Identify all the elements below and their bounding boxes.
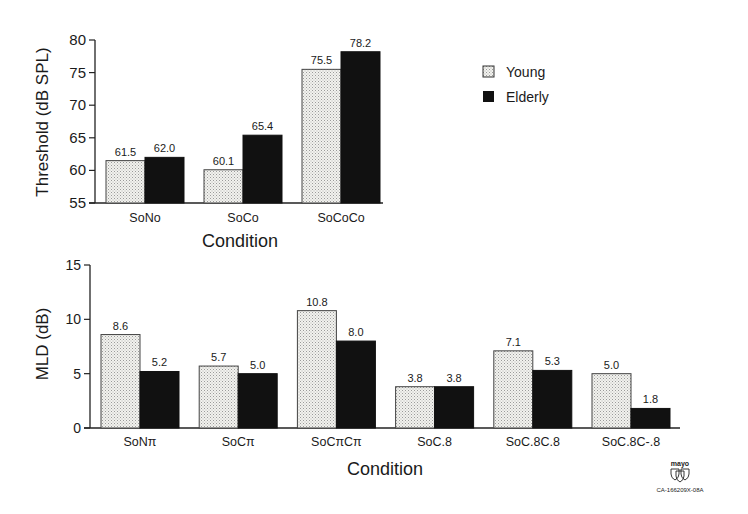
- mld-labels: 8.65.2SoNπ5.75.0SoCπ10.88.0SoCπCπ3.83.8S…: [113, 296, 660, 449]
- threshold-x-tick-label: SoCo: [227, 211, 258, 225]
- bar-young-soc-8c-8: [592, 374, 631, 428]
- data-label-elderly-socpi: 5.0: [250, 359, 265, 371]
- bar-elderly-socpicpi: [336, 341, 375, 428]
- data-label-elderly-sono: 62.0: [154, 142, 175, 154]
- bar-young-socpi: [199, 366, 238, 428]
- data-label-young-socpicpi: 10.8: [306, 296, 327, 308]
- legend-swatch-elderly: [483, 91, 494, 102]
- mld-x-tick-label: SoCπCπ: [311, 435, 362, 449]
- figure: 556065707580 61.562.0SoNo60.165.4SoCo75.…: [0, 0, 748, 514]
- threshold-x-axis-label: Condition: [202, 231, 278, 251]
- data-label-young-socpi: 5.7: [211, 351, 226, 363]
- bar-elderly-soco: [243, 135, 282, 203]
- data-label-elderly-soco: 65.4: [252, 120, 273, 132]
- bar-elderly-soc-8c-8: [631, 408, 670, 428]
- data-label-elderly-soc-8c-8: 1.8: [643, 393, 658, 405]
- bar-young-soc-8c-8: [494, 351, 533, 428]
- bar-young-soc-8: [396, 387, 435, 428]
- data-label-young-soco: 60.1: [213, 155, 234, 167]
- data-label-young-soc-8c-8: 5.0: [604, 359, 619, 371]
- bar-elderly-socpi: [238, 374, 277, 428]
- data-label-elderly-soc-8: 3.8: [446, 372, 461, 384]
- threshold-y-tick-label: 75: [69, 64, 86, 81]
- bar-elderly-sococo: [341, 52, 380, 203]
- threshold-y-tick-label: 60: [69, 161, 86, 178]
- bar-young-sonpi: [101, 335, 140, 428]
- legend-item-elderly: Elderly: [483, 89, 549, 105]
- data-label-young-sono: 61.5: [115, 146, 136, 158]
- threshold-y-tick-label: 65: [69, 129, 86, 146]
- bar-elderly-sonpi: [140, 371, 179, 428]
- mld-x-tick-label: SoC.8: [417, 435, 452, 449]
- data-label-young-soc-8c-8: 7.1: [506, 336, 521, 348]
- legend-label-elderly: Elderly: [506, 89, 549, 105]
- mld-bars: [101, 311, 670, 428]
- mld-x-tick-label: SoCπ: [222, 435, 255, 449]
- mld-x-tick-label: SoC.8C-.8: [602, 435, 660, 449]
- bar-young-sono: [106, 161, 145, 203]
- bar-young-soco: [204, 170, 243, 203]
- mld-y-axis-label: MLD (dB): [33, 308, 52, 381]
- logo-text: mayo: [671, 460, 689, 468]
- data-label-young-sonpi: 8.6: [113, 320, 128, 332]
- mld-chart: 051015 8.65.2SoNπ5.75.0SoCπ10.88.0SoCπCπ…: [33, 257, 680, 479]
- data-label-young-soc-8: 3.8: [407, 372, 422, 384]
- threshold-y-tick-label: 80: [69, 31, 86, 48]
- threshold-y-axis-label: Threshold (dB SPL): [33, 47, 52, 196]
- mld-y-tick-label: 0: [73, 420, 81, 436]
- mld-y-tick-label: 10: [65, 311, 81, 327]
- data-label-elderly-socpicpi: 8.0: [348, 326, 363, 338]
- legend-label-young: Young: [506, 64, 545, 80]
- legend-item-young: Young: [483, 64, 545, 80]
- data-label-elderly-sonpi: 5.2: [152, 356, 167, 368]
- legend-swatch-young: [483, 66, 494, 77]
- threshold-x-tick-label: SoCoCo: [317, 211, 364, 225]
- bar-elderly-soc-8: [435, 387, 474, 428]
- bar-young-socpicpi: [297, 311, 336, 428]
- data-label-elderly-soc-8c-8: 5.3: [545, 355, 560, 367]
- mld-x-tick-label: SoC.8C.8: [506, 435, 560, 449]
- mayo-logo: mayo CA-166209X-08A: [656, 460, 703, 493]
- bar-elderly-sono: [145, 157, 184, 203]
- bar-elderly-soc-8c-8: [533, 370, 572, 428]
- legend: Young Elderly: [483, 64, 549, 105]
- mld-y-tick-label: 15: [65, 257, 81, 273]
- bar-young-sococo: [302, 69, 341, 203]
- threshold-bars: [106, 52, 380, 203]
- threshold-y-tick-label: 55: [69, 194, 86, 211]
- shield-icon: [671, 469, 689, 482]
- data-label-young-sococo: 75.5: [311, 54, 332, 66]
- threshold-chart: 556065707580 61.562.0SoNo60.165.4SoCo75.…: [33, 31, 383, 251]
- threshold-y-tick-label: 70: [69, 96, 86, 113]
- mld-y-tick-label: 5: [73, 366, 81, 382]
- threshold-x-tick-label: SoNo: [129, 211, 160, 225]
- mld-x-tick-label: SoNπ: [124, 435, 157, 449]
- figure-code: CA-166209X-08A: [656, 487, 703, 493]
- data-label-elderly-sococo: 78.2: [350, 37, 371, 49]
- mld-x-axis-label: Condition: [347, 459, 423, 479]
